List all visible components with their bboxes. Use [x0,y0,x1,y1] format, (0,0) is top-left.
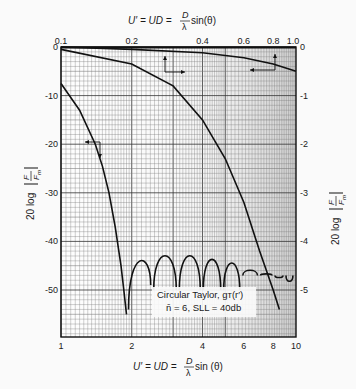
bottom-tick-label: 10 [291,341,301,351]
chart-canvas: 12468100.10.20.40.60.81.00-10-20-30-40-5… [0,0,356,389]
svg-text:D: D [182,10,189,20]
svg-text:F: F [22,174,31,180]
svg-text:m: m [36,170,42,175]
svg-text:20 log: 20 log [25,193,36,220]
svg-text:20 log: 20 log [330,218,341,245]
svg-text:m: m [341,195,347,200]
annotation-line-2: n̄ = 6, SLL = 40db [166,302,241,313]
svg-text:sin(θ): sin(θ) [191,15,216,26]
annotation-line-1: Circular Taylor, gᴛ(r′) [157,289,243,300]
bottom-tick-label: 6 [241,341,246,351]
svg-text:U′ = UD =: U′ = UD = [133,361,177,372]
right-tick-label: -1 [300,91,308,101]
top-tick-label: 0.6 [238,36,251,46]
bottom-tick-label: 2 [129,341,134,351]
left-tick-label: -30 [45,188,58,198]
left-tick-label: -10 [45,91,58,101]
left-axis-title: 20 log F F m [22,168,42,220]
top-tick-label: 0.4 [196,36,209,46]
svg-text:F: F [327,199,336,205]
right-tick-label: -4 [300,236,308,246]
left-tick-label: -40 [45,236,58,246]
svg-text:D: D [186,356,193,366]
left-tick-label: -20 [45,139,58,149]
top-tick-label: 1.0 [287,36,300,46]
top-tick-label: 0.8 [267,36,280,46]
left-tick-label: 0 [53,42,58,52]
top-axis-title: U′ = UD = D λ sin(θ) [128,10,216,32]
svg-text:sin (θ): sin (θ) [195,361,223,372]
bottom-tick-label: 8 [271,341,276,351]
right-tick-label: -5 [300,285,308,295]
bottom-axis-title: U′ = UD = D λ sin (θ) [133,356,223,378]
right-tick-label: -2 [300,139,308,149]
svg-text:λ: λ [182,22,187,32]
svg-text:U′ = UD =: U′ = UD = [128,15,172,26]
annotation-box: Circular Taylor, gᴛ(r′) n̄ = 6, SLL = 40… [152,287,256,317]
right-tick-label: 0 [300,42,305,52]
right-axis-title: 20 log F F m [327,193,347,245]
bottom-tick-label: 4 [200,341,205,351]
right-tick-label: -3 [300,188,308,198]
left-tick-label: -50 [45,285,58,295]
top-tick-label: 0.2 [125,36,138,46]
bottom-tick-label: 1 [58,341,63,351]
svg-text:λ: λ [186,368,191,378]
